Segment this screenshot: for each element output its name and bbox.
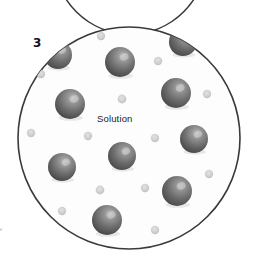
solute-sphere: [161, 78, 191, 108]
solvent-dot: [84, 132, 92, 140]
solute-sphere: [92, 205, 122, 235]
solvent-dot: [118, 95, 127, 104]
solute-sphere: [48, 153, 76, 181]
solvent-dot: [205, 170, 213, 178]
solvent-dot: [97, 32, 105, 40]
solvent-dot: [27, 129, 35, 137]
solute-sphere: [108, 142, 136, 170]
solvent-dot: [154, 57, 162, 65]
solvent-dot: [141, 184, 149, 192]
solution-diagram-canvas: [0, 0, 253, 265]
solute-sphere: [105, 47, 135, 77]
solute-sphere: [162, 176, 192, 206]
solvent-dot: [151, 134, 159, 142]
solute-sphere: [55, 89, 85, 119]
solute-sphere: [169, 28, 197, 56]
solvent-dot: [203, 90, 211, 98]
solvent-dot: [151, 226, 159, 234]
solute-sphere: [180, 125, 208, 153]
figure-panel: 3 Solution e: [0, 0, 253, 265]
solvent-dot: [58, 207, 66, 215]
solvent-dot: [96, 186, 105, 195]
